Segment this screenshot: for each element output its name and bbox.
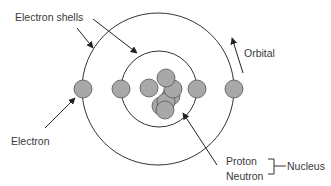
electron-outer-left [74,80,92,98]
neutron-label: Neutron [226,170,263,182]
proton-label: Proton [226,155,257,167]
nucleus-label: Nucleus [287,160,325,172]
shell-arrow-inner [93,19,137,53]
nucleus-arrow [183,113,217,165]
nucleus-bracket [268,159,286,174]
electron-label: Electron [11,135,50,147]
orbital-label: Orbital [244,47,275,59]
electron-arrow [45,98,75,128]
electron-outer-right [225,80,243,98]
electron-inner-left [112,80,130,98]
orbital-arrow [232,38,243,73]
shell-arrow-outer [77,28,93,48]
electron-inner-right [188,80,206,98]
nucleus-cluster [140,69,182,119]
electron-shells-label: Electron shells [15,11,83,23]
atom-diagram [0,0,331,186]
